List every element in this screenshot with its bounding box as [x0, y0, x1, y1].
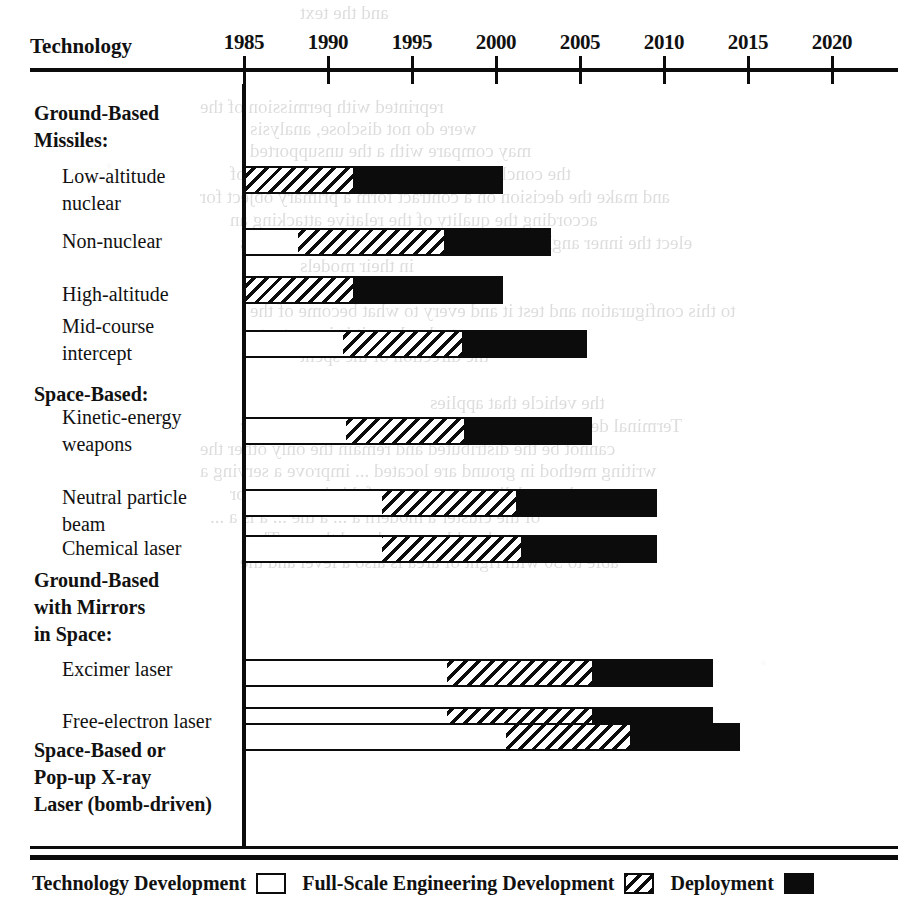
bar-segment-deployment [462, 330, 586, 358]
chart-legend: Technology DevelopmentFull-Scale Enginee… [32, 866, 900, 900]
sdi-technology-timeline-chart: Technology 19851990199520002005201020152… [0, 0, 909, 921]
bar-segment-technology-development [244, 228, 298, 256]
axis-tick-2020 [831, 56, 834, 84]
bar-segment-full-scale-engineering-development [382, 535, 521, 563]
axis-tick-label-2020: 2020 [812, 30, 852, 55]
bar-segment-full-scale-engineering-development [447, 659, 591, 687]
bar-segment-technology-development [244, 417, 346, 445]
axis-tick-label-1990: 1990 [308, 30, 348, 55]
bar-segment-technology-development [244, 723, 506, 751]
bar-row [244, 723, 740, 751]
group-heading-0: Ground-Based Missiles: [34, 100, 159, 154]
bar-segment-deployment [516, 489, 657, 517]
row-label-3: Mid-course intercept [62, 313, 154, 367]
axis-tick-1985 [243, 56, 246, 84]
bar-row [244, 330, 587, 358]
legend-black-box-swatch [784, 873, 814, 894]
bar-row [244, 276, 503, 304]
bar-row [244, 535, 657, 563]
bar-segment-deployment [464, 417, 592, 445]
axis-tick-2005 [579, 56, 582, 84]
bar-segment-full-scale-engineering-development [343, 330, 462, 358]
bar-segment-full-scale-engineering-development [244, 166, 353, 194]
group-heading-3: Space-Based or Pop-up X-ray Laser (bomb-… [34, 737, 212, 818]
bar-segment-deployment [592, 659, 713, 687]
bar-row [244, 228, 551, 256]
axis-tick-2000 [495, 56, 498, 84]
row-header-label: Technology [30, 34, 132, 59]
bar-segment-deployment [630, 723, 739, 751]
bar-segment-full-scale-engineering-development [244, 276, 353, 304]
axis-tick-label-2015: 2015 [728, 30, 768, 55]
bar-segment-deployment [353, 166, 503, 194]
legend-label-2: Deployment [670, 872, 773, 895]
bar-segment-deployment [521, 535, 657, 563]
bar-row [244, 417, 592, 445]
axis-tick-1995 [411, 56, 414, 84]
bar-row [244, 166, 503, 194]
bottom-rule-thin [30, 846, 898, 849]
axis-tick-label-2000: 2000 [476, 30, 516, 55]
bar-segment-technology-development [244, 659, 447, 687]
bar-row [244, 489, 657, 517]
row-label-0: Low-altitude nuclear [62, 163, 165, 217]
row-label-6: Chemical laser [62, 535, 181, 562]
legend-label-0: Technology Development [32, 872, 246, 895]
bar-row [244, 659, 713, 687]
time-axis-line [30, 68, 898, 72]
row-label-1: Non-nuclear [62, 228, 162, 255]
axis-tick-label-1985: 1985 [224, 30, 264, 55]
bar-segment-full-scale-engineering-development [382, 489, 516, 517]
bottom-rule-thick [30, 855, 898, 860]
legend-hatched-box-swatch [624, 873, 654, 894]
axis-tick-label-2005: 2005 [560, 30, 600, 55]
row-label-5: Neutral particle beam [62, 484, 187, 538]
axis-tick-2010 [663, 56, 666, 84]
bar-segment-deployment [353, 276, 503, 304]
bar-segment-technology-development [244, 489, 382, 517]
bar-segment-full-scale-engineering-development [346, 417, 464, 445]
row-label-8: Free-electron laser [62, 708, 211, 735]
row-label-2: High-altitude [62, 281, 169, 308]
axis-tick-1990 [327, 56, 330, 84]
legend-label-1: Full-Scale Engineering Development [302, 872, 614, 895]
group-heading-2: Ground-Based with Mirrors in Space: [34, 567, 159, 648]
axis-tick-label-2010: 2010 [644, 30, 684, 55]
axis-tick-label-1995: 1995 [392, 30, 432, 55]
bar-segment-deployment [444, 228, 552, 256]
row-label-4: Kinetic-energy weapons [62, 404, 182, 458]
bar-segment-full-scale-engineering-development [298, 228, 444, 256]
axis-tick-2015 [747, 56, 750, 84]
bar-segment-technology-development [244, 535, 382, 563]
bar-segment-full-scale-engineering-development [506, 723, 630, 751]
row-label-7: Excimer laser [62, 656, 173, 683]
bar-segment-technology-development [244, 330, 343, 358]
legend-white-box-swatch [256, 873, 286, 894]
